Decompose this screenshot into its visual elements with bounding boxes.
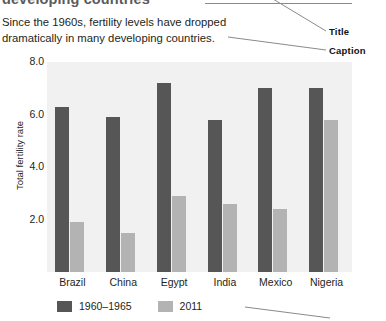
legend-label: 2011 [180, 300, 203, 312]
bar [309, 88, 323, 272]
chart-legend: 1960–19652011 [57, 300, 202, 312]
bar [70, 222, 84, 272]
bar-group [98, 62, 149, 272]
bar-group [250, 62, 301, 272]
y-axis-tick-labels: 2.04.06.08.0 [0, 0, 44, 321]
legend-label: 1960–1965 [79, 300, 132, 312]
bar-group [301, 62, 352, 272]
bar [258, 88, 272, 272]
bar [273, 209, 287, 272]
bars-layer [47, 62, 352, 272]
bar [55, 107, 69, 272]
legend-swatch [158, 301, 173, 312]
bar-group [149, 62, 200, 272]
callout-label-title: Title [329, 26, 349, 37]
callout-label-caption: Caption [329, 45, 366, 56]
x-axis-tick-label: Nigeria [297, 276, 357, 288]
legend-item: 2011 [158, 300, 203, 312]
bar [157, 83, 171, 272]
legend-swatch [57, 301, 72, 312]
bar [106, 117, 120, 272]
y-axis-tick-label: 4.0 [2, 160, 44, 172]
bar [121, 233, 135, 272]
bar [172, 196, 186, 272]
bar [324, 120, 338, 272]
y-axis-tick-label: 8.0 [2, 55, 44, 67]
bar [223, 204, 237, 272]
y-axis-tick-label: 2.0 [2, 213, 44, 225]
bar-group [47, 62, 98, 272]
bar-group [200, 62, 251, 272]
bar [208, 120, 222, 272]
legend-item: 1960–1965 [57, 300, 132, 312]
y-axis-tick-label: 6.0 [2, 108, 44, 120]
